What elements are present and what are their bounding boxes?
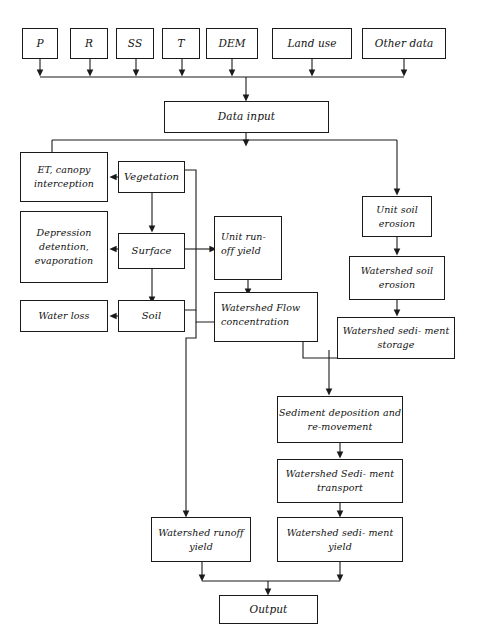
watershed-sediment-storage-box[interactable]: Watershed sedi- ment storage	[337, 317, 455, 359]
input-box-land-use-label: Land use	[287, 36, 336, 51]
input-box-dem[interactable]: DEM	[206, 28, 258, 59]
watershed-runoff-yield-line-1: Watershed	[158, 527, 210, 538]
watershed-runoff-yield-text: Watershed runoff yield	[152, 526, 250, 554]
depression-text: Depression detention, evaporation	[21, 226, 107, 267]
unit-runoff-yield-line-1: Unit run-	[221, 230, 275, 244]
flow-concentration-line-2: concentration	[221, 315, 311, 329]
et-canopy-line-1: ET, canopy	[37, 164, 90, 175]
soil-label: Soil	[142, 309, 162, 324]
input-box-land-use[interactable]: Land use	[272, 28, 352, 59]
sediment-deposition-line-1: Sediment deposition	[279, 407, 380, 418]
surface-label: Surface	[132, 244, 172, 259]
input-box-ss[interactable]: SS	[116, 28, 154, 59]
input-box-p-label: P	[36, 36, 43, 51]
water-loss-box[interactable]: Water loss	[20, 300, 108, 332]
sediment-deposition-box[interactable]: Sediment deposition and re-movement	[277, 396, 403, 443]
flow-concentration-box[interactable]: Watershed Flow concentration	[214, 292, 318, 342]
input-box-t-label: T	[177, 36, 184, 51]
watershed-sediment-storage-text: Watershed sedi- ment storage	[338, 324, 454, 352]
input-box-t[interactable]: T	[162, 28, 200, 59]
depression-line-2: detention,	[39, 241, 89, 252]
watershed-sediment-transport-text: Watershed Sedi- ment transport	[278, 467, 402, 495]
flowchart-canvas: P R SS T DEM Land use Other data Data in…	[0, 0, 478, 638]
input-box-other-data[interactable]: Other data	[362, 28, 446, 59]
data-input-box[interactable]: Data input	[164, 101, 329, 133]
unit-soil-erosion-line-1: Unit soil	[376, 204, 418, 215]
watershed-sediment-yield-line-1: Watershed sedi-	[287, 527, 366, 538]
vegetation-box[interactable]: Vegetation	[118, 161, 185, 193]
watershed-soil-erosion-text: Watershed soil erosion	[350, 264, 444, 292]
et-canopy-line-2: interception	[34, 178, 94, 189]
watershed-sediment-transport-box[interactable]: Watershed Sedi- ment transport	[277, 459, 403, 503]
sediment-deposition-text: Sediment deposition and re-movement	[278, 406, 402, 434]
surface-box[interactable]: Surface	[118, 233, 185, 269]
watershed-sediment-storage-line-1: Watershed sedi-	[343, 325, 422, 336]
flow-concentration-line-1: Watershed Flow	[221, 301, 311, 315]
unit-runoff-yield-box[interactable]: Unit run- off yield	[214, 216, 282, 280]
input-box-dem-label: DEM	[218, 36, 245, 51]
depression-line-1: Depression	[36, 227, 91, 238]
input-box-p[interactable]: P	[22, 28, 58, 59]
depression-detention-evaporation-box[interactable]: Depression detention, evaporation	[20, 211, 108, 283]
watershed-sediment-yield-text: Watershed sedi- ment yield	[278, 526, 402, 554]
output-box[interactable]: Output	[219, 595, 318, 624]
watershed-sediment-yield-box[interactable]: Watershed sedi- ment yield	[277, 517, 403, 562]
unit-soil-erosion-line-2: erosion	[379, 218, 415, 229]
output-label: Output	[250, 602, 288, 617]
vegetation-label: Vegetation	[124, 170, 179, 185]
unit-runoff-yield-line-2: off yield	[221, 244, 275, 258]
soil-box[interactable]: Soil	[118, 300, 185, 332]
watershed-soil-erosion-line-1: Watershed	[361, 265, 413, 276]
watershed-runoff-yield-box[interactable]: Watershed runoff yield	[151, 517, 251, 562]
depression-line-3: evaporation	[35, 255, 93, 266]
input-box-r-label: R	[85, 36, 93, 51]
watershed-soil-erosion-box[interactable]: Watershed soil erosion	[349, 256, 445, 300]
input-box-r[interactable]: R	[70, 28, 108, 59]
et-canopy-interception-text: ET, canopy interception	[21, 163, 107, 191]
input-box-other-data-label: Other data	[375, 36, 434, 51]
input-box-ss-label: SS	[128, 36, 142, 51]
watershed-sediment-transport-line-1: Watershed Sedi-	[286, 468, 366, 479]
water-loss-label: Water loss	[38, 309, 89, 323]
unit-soil-erosion-box[interactable]: Unit soil erosion	[362, 196, 432, 237]
unit-soil-erosion-text: Unit soil erosion	[363, 203, 431, 231]
data-input-label: Data input	[218, 109, 275, 124]
et-canopy-interception-box[interactable]: ET, canopy interception	[20, 152, 108, 202]
